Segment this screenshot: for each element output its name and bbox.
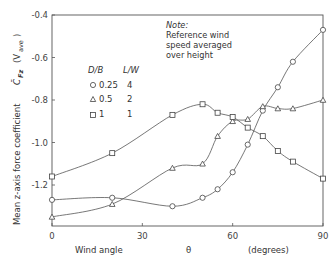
y-tick-label: -0.6 xyxy=(31,53,48,63)
square-marker-icon xyxy=(245,125,250,130)
x-tick-label: 30 xyxy=(137,231,148,241)
square-marker-icon xyxy=(290,159,295,164)
triangle-marker-icon xyxy=(109,201,115,206)
note-line-3: over height xyxy=(166,50,214,60)
x-axis-label-units: (degrees) xyxy=(248,245,289,255)
triangle-marker-icon xyxy=(245,116,251,121)
y-axis-label-symbol: C̄ xyxy=(11,79,22,85)
circle-marker-icon xyxy=(90,82,95,87)
y-axis-label-ref: (V xyxy=(12,54,22,63)
legend-header-db: D/B xyxy=(88,65,103,75)
legend-db-2: 1 xyxy=(99,109,104,119)
square-marker-icon xyxy=(110,151,115,156)
circle-marker-icon xyxy=(49,197,54,202)
series-square xyxy=(50,102,326,181)
square-marker-icon xyxy=(215,110,220,115)
triangle-marker-icon xyxy=(90,97,95,102)
x-tick-label: 60 xyxy=(227,231,238,241)
legend-lw-1: 2 xyxy=(127,94,132,104)
square-marker-icon xyxy=(200,102,205,107)
y-tick-label: -0.4 xyxy=(31,10,48,20)
legend-header-lw: L/W xyxy=(123,65,140,75)
y-axis-label-ref-close: ) xyxy=(12,34,22,37)
square-marker-icon xyxy=(260,134,265,139)
square-marker-icon xyxy=(321,176,326,181)
y-axis-label: Mean z-axis force coefficient C̄ Fz (V a… xyxy=(11,34,25,225)
legend-db-0: 0.25 xyxy=(99,80,118,90)
note-title: Note: xyxy=(166,20,188,30)
y-axis-label-ref-sub: ave xyxy=(17,40,25,52)
circle-marker-icon xyxy=(290,59,295,64)
legend-lw-0: 4 xyxy=(127,80,132,90)
series-line xyxy=(52,104,323,178)
x-axis-label-symbol: θ xyxy=(186,245,191,255)
y-tick-label: -1.0 xyxy=(31,138,48,148)
y-axis-label-text: Mean z-axis force coefficient xyxy=(12,103,22,225)
x-axis-label-text: Wind angle xyxy=(75,245,123,255)
y-axis-label-symbol-sub: Fz xyxy=(17,70,25,78)
square-marker-icon xyxy=(170,112,175,117)
square-marker-icon xyxy=(230,115,235,120)
note-line-2: speed averaged xyxy=(166,40,232,50)
x-tick-label: 0 xyxy=(49,231,54,241)
x-tick-label: 90 xyxy=(318,231,329,241)
circle-marker-icon xyxy=(215,187,220,192)
legend: D/B L/W 0.25 4 0.5 2 1 1 xyxy=(88,65,140,119)
triangle-marker-icon xyxy=(320,97,326,102)
circle-marker-icon xyxy=(200,195,205,200)
y-tick-label: -1.2 xyxy=(31,180,48,190)
legend-lw-2: 1 xyxy=(127,109,132,119)
y-tick-label: -0.8 xyxy=(31,95,48,105)
circle-marker-icon xyxy=(230,170,235,175)
square-marker-icon xyxy=(50,174,55,179)
circle-marker-icon xyxy=(275,85,280,90)
triangle-marker-icon xyxy=(215,133,221,138)
square-marker-icon xyxy=(275,149,280,154)
triangle-marker-icon xyxy=(170,165,176,170)
circle-marker-icon xyxy=(170,204,175,209)
circle-marker-icon xyxy=(245,142,250,147)
chart: -0.4-0.6-0.8-1.0-1.20306090 D/B L/W 0.25… xyxy=(0,0,335,265)
square-marker-icon xyxy=(91,113,96,118)
note-annotation: Note: Reference wind speed averaged over… xyxy=(166,20,232,60)
circle-marker-icon xyxy=(320,27,325,32)
legend-db-1: 0.5 xyxy=(99,94,113,104)
x-axis-label: Wind angle θ (degrees) xyxy=(75,245,289,255)
circle-marker-icon xyxy=(110,195,115,200)
note-line-1: Reference wind xyxy=(166,30,229,40)
